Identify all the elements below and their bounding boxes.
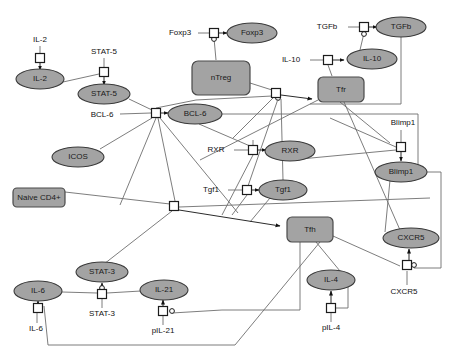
reaction-node-il4[interactable]: [327, 304, 336, 313]
label-blimp1-source: Blimp1: [391, 118, 416, 127]
edge-naive-to-reaction: [65, 192, 170, 204]
reaction-node-stat5[interactable]: [100, 68, 109, 77]
node-tfr[interactable]: Tfr: [318, 77, 364, 102]
node-il21[interactable]: IL-21: [140, 280, 188, 300]
node-tgf1-label: Tgf1: [275, 185, 292, 194]
edge-stat5-to-bcl6-reaction: [129, 99, 152, 110]
label-rxr-source: RXR: [208, 145, 225, 154]
node-il10-label: IL-10: [363, 54, 382, 63]
reaction-node-il10[interactable]: [324, 56, 333, 65]
node-blimp1-label: Blimp1: [389, 167, 414, 176]
label-bcl6-source: BCL-6: [91, 110, 114, 119]
reaction-node-tfh[interactable]: [170, 202, 179, 211]
edge-tfh-reaction-to-stat3: [104, 211, 172, 264]
network-diagram-svg: nTreg Tfr Naive CD4+ Tfh IL-2: [0, 0, 454, 354]
label-il6-source: IL-6: [29, 324, 43, 333]
label-stat5-source: STAT-5: [91, 47, 117, 56]
edge-ntreg-reaction-to-tgf1: [281, 99, 283, 180]
node-tfh[interactable]: Tfh: [287, 217, 333, 242]
edge-tfh-to-il21-reaction: [172, 310, 222, 313]
node-tfh-label: Tfh: [304, 225, 316, 234]
reaction-node-bcl6[interactable]: [152, 109, 161, 118]
edge-reaction-to-tfr: [281, 95, 312, 99]
node-tgfb[interactable]: TGFb: [376, 17, 426, 37]
species-node-layer: IL-2 STAT-5 BCL-6 ICOS Foxp3 TGFb: [14, 17, 439, 301]
reaction-node-blimp1[interactable]: [397, 143, 406, 152]
node-ntreg[interactable]: nTreg: [192, 61, 250, 95]
label-tgfb-source: TGFb: [317, 22, 338, 31]
edge-tgf1-to-tfh: [250, 198, 270, 222]
edge-il2-to-stat5-reaction: [63, 74, 99, 82]
edge-il10-reaction-to-tfr: [328, 65, 332, 76]
reaction-node-cxcr5[interactable]: [403, 261, 412, 270]
node-il2[interactable]: IL-2: [16, 69, 64, 89]
modifier-dot-tgfb: [362, 32, 367, 37]
node-tfr-label: Tfr: [336, 85, 346, 94]
node-il6-label: IL-6: [31, 286, 45, 295]
edge-stat3-reaction-to-il21: [107, 291, 141, 293]
node-il6[interactable]: IL-6: [14, 281, 62, 301]
node-foxp3[interactable]: Foxp3: [227, 23, 277, 43]
label-foxp3-source: Foxp3: [169, 28, 192, 37]
edge-bcl6-up-to-ntreg-reaction: [196, 96, 272, 100]
reaction-node-foxp3[interactable]: [210, 29, 219, 38]
network-diagram-canvas: nTreg Tfr Naive CD4+ Tfh IL-2: [0, 0, 454, 354]
node-il2-label: IL-2: [33, 74, 47, 83]
node-bcl6[interactable]: BCL-6: [168, 104, 222, 124]
label-tgf1-source: Tgf1: [203, 185, 220, 194]
edge-tfh-down-diagonal: [235, 242, 320, 345]
node-rxr-label: RXR: [282, 146, 299, 155]
label-pil21-source: pIL-21: [152, 326, 175, 335]
node-tgf1[interactable]: Tgf1: [259, 180, 307, 200]
label-il2-source: IL-2: [33, 35, 47, 44]
node-tgfb-label: TGFb: [391, 22, 412, 31]
node-il4-label: IL-4: [324, 275, 338, 284]
node-cxcr5-label: CXCR5: [397, 233, 425, 242]
node-il10[interactable]: IL-10: [347, 49, 397, 69]
edge-tfh-to-il4: [316, 242, 340, 271]
edge-blimp1-reaction-left: [330, 118, 396, 147]
reaction-node-ntreg-to-tfr[interactable]: [272, 89, 281, 98]
edge-tfr-to-blimp1-reaction: [340, 102, 390, 143]
node-blimp1[interactable]: Blimp1: [375, 162, 427, 182]
edge-ntreg-reaction-down: [248, 99, 278, 186]
node-stat3[interactable]: STAT-3: [76, 262, 128, 282]
node-icos-label: ICOS: [68, 152, 88, 161]
edge-tfh-reaction-right-long: [179, 198, 430, 207]
edge-bcl6-reaction-down-right: [158, 118, 175, 201]
edge-il6-to-stat3-reaction: [62, 292, 97, 293]
edge-icos-to-bcl6-reaction: [100, 118, 152, 149]
node-foxp3-label: Foxp3: [241, 28, 264, 37]
label-il10-source: IL-10: [282, 55, 301, 64]
reaction-node-tgf1[interactable]: [243, 186, 252, 195]
node-stat5-label: STAT-5: [91, 89, 117, 98]
edge-reaction-to-tfh: [179, 210, 280, 226]
edge-bcl6-reaction-down-left: [120, 118, 156, 205]
reaction-node-il21[interactable]: [159, 307, 168, 316]
node-il21-label: IL-21: [155, 285, 174, 294]
node-naive-cd4[interactable]: Naive CD4+: [13, 188, 65, 207]
node-il4[interactable]: IL-4: [307, 270, 355, 290]
edge-bcl6-label-to-reaction: [120, 113, 151, 114]
node-bcl6-label: BCL-6: [184, 109, 207, 118]
reaction-node-rxr[interactable]: [249, 146, 258, 155]
edge-ntreg-to-reaction: [250, 83, 272, 90]
reaction-node-tgfb[interactable]: [360, 23, 369, 32]
node-ntreg-label: nTreg: [211, 73, 232, 82]
label-pil4-source: pIL-4: [322, 323, 341, 332]
edge-bcl6-to-rxr-reaction: [199, 124, 250, 146]
node-rxr[interactable]: RXR: [265, 141, 315, 161]
reaction-node-il6[interactable]: [34, 304, 43, 313]
modifier-dot-cxcr5: [412, 263, 417, 268]
node-icos[interactable]: ICOS: [52, 147, 104, 167]
edge-bcl6-reaction-to-tfh: [160, 118, 238, 213]
node-stat3-label: STAT-3: [89, 267, 115, 276]
edge-bottom-to-il6-reaction: [44, 306, 48, 345]
node-stat5[interactable]: STAT-5: [78, 84, 130, 104]
node-cxcr5[interactable]: CXCR5: [383, 228, 439, 248]
reaction-node-il2[interactable]: [36, 54, 45, 63]
node-naive-cd4-label: Naive CD4+: [17, 193, 61, 202]
label-stat3-source: STAT-3: [89, 309, 115, 318]
modifier-dot-il21: [170, 309, 175, 314]
reaction-node-stat3[interactable]: [98, 290, 107, 299]
